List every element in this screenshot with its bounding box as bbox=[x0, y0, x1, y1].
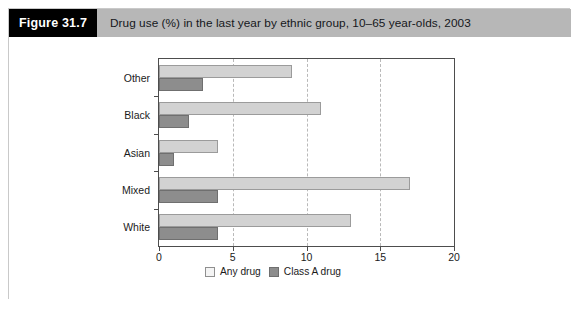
category-label-mixed: Mixed bbox=[122, 184, 150, 196]
x-tick-label: 0 bbox=[156, 251, 162, 263]
category-label-asian: Asian bbox=[124, 147, 150, 159]
category-tick bbox=[154, 209, 159, 210]
bar-any-drug-white bbox=[159, 214, 351, 227]
bar-class-a-drug-asian bbox=[159, 153, 174, 166]
light-gray-swatch bbox=[205, 267, 215, 277]
bar-any-drug-mixed bbox=[159, 177, 410, 190]
x-tick-label: 20 bbox=[448, 251, 460, 263]
bar-any-drug-asian bbox=[159, 140, 218, 153]
figure-number-badge: Figure 31.7 bbox=[9, 9, 97, 37]
figure-panel: Figure 31.7 Drug use (%) in the last yea… bbox=[8, 8, 570, 299]
figure-header: Figure 31.7 Drug use (%) in the last yea… bbox=[9, 9, 571, 37]
legend-item-class-a-drug: Class A drug bbox=[269, 266, 341, 277]
figure-caption: Drug use (%) in the last year by ethnic … bbox=[97, 9, 571, 37]
category-tick bbox=[154, 134, 159, 135]
legend-item-any-drug: Any drug bbox=[205, 266, 261, 277]
legend-label: Class A drug bbox=[284, 266, 341, 277]
legend-label: Any drug bbox=[220, 266, 261, 277]
gridline-15 bbox=[380, 59, 381, 246]
category-label-other: Other bbox=[124, 72, 150, 84]
bar-class-a-drug-white bbox=[159, 227, 218, 240]
x-tick-label: 10 bbox=[301, 251, 313, 263]
category-label-black: Black bbox=[124, 109, 150, 121]
bar-class-a-drug-mixed bbox=[159, 190, 218, 203]
chart-legend: Any drugClass A drug bbox=[205, 266, 341, 277]
chart-body: OtherBlackAsianMixedWhite 05101520 Any d… bbox=[9, 37, 571, 299]
bar-class-a-drug-other bbox=[159, 78, 203, 91]
bar-any-drug-black bbox=[159, 102, 321, 115]
category-tick bbox=[154, 96, 159, 97]
category-label-white: White bbox=[123, 221, 150, 233]
category-tick bbox=[154, 171, 159, 172]
bar-class-a-drug-black bbox=[159, 115, 189, 128]
x-tick-label: 15 bbox=[374, 251, 386, 263]
dark-gray-swatch bbox=[269, 267, 279, 277]
plot-area: OtherBlackAsianMixedWhite 05101520 bbox=[158, 58, 455, 247]
x-tick-label: 5 bbox=[230, 251, 236, 263]
bar-any-drug-other bbox=[159, 65, 292, 78]
